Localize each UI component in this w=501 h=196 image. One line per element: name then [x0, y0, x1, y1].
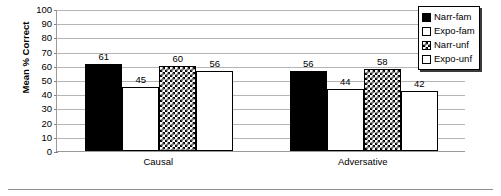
bar[interactable]: 44	[327, 89, 364, 151]
x-axis-category-labels: CausalAdversative	[56, 156, 465, 172]
y-tick-label: 0	[24, 147, 52, 157]
y-tick-label: 70	[24, 48, 52, 58]
bar-value-label: 56	[303, 59, 314, 69]
y-tick-label: 100	[24, 5, 52, 15]
y-tick-label: 10	[24, 133, 52, 143]
bar-chart-figure: Mean % Correct 1009080706050403020100 61…	[0, 0, 501, 196]
bar[interactable]: 60	[159, 66, 196, 151]
chart-legend: Narr-famExpo-famNarr-unfExpo-unf	[418, 6, 480, 70]
y-tick-label: 50	[24, 76, 52, 86]
x-category-label: Causal	[56, 156, 261, 168]
y-tick-label: 60	[24, 62, 52, 71]
bottom-divider-rule	[8, 189, 493, 190]
bar-value-label: 61	[98, 52, 109, 62]
x-category-label: Adversative	[261, 156, 466, 168]
legend-swatch-icon	[422, 55, 431, 64]
bar[interactable]: 58	[364, 69, 401, 151]
bar-value-label: 45	[135, 75, 146, 85]
legend-item[interactable]: Expo-unf	[422, 52, 475, 66]
y-tick-label: 90	[24, 19, 52, 29]
y-tick-mark	[54, 152, 58, 153]
bar-value-label: 58	[377, 57, 388, 67]
y-tick-label: 40	[24, 90, 52, 100]
legend-label: Expo-unf	[434, 54, 472, 64]
bar-value-label: 60	[172, 54, 183, 64]
bar[interactable]: 42	[401, 91, 438, 151]
y-tick-label: 30	[24, 105, 52, 115]
plot-area: 6145605656445842	[56, 10, 465, 152]
bar-value-label: 42	[414, 79, 425, 89]
bar[interactable]: 61	[85, 64, 122, 151]
legend-item[interactable]: Narr-fam	[422, 10, 475, 24]
bar-value-label: 56	[209, 59, 220, 69]
legend-swatch-icon	[422, 27, 431, 36]
legend-swatch-icon	[422, 41, 431, 50]
legend-item[interactable]: Expo-fam	[422, 24, 475, 38]
legend-swatch-icon	[422, 13, 431, 22]
bar[interactable]: 45	[122, 87, 159, 151]
legend-label: Narr-fam	[434, 12, 471, 22]
bar-group: 56445842	[290, 10, 438, 151]
bar-group: 61456056	[85, 10, 233, 151]
legend-label: Expo-fam	[434, 26, 475, 36]
y-tick-label: 20	[24, 119, 52, 129]
y-tick-label: 80	[24, 34, 52, 44]
bar[interactable]: 56	[290, 71, 327, 151]
legend-label: Narr-unf	[434, 40, 469, 50]
legend-item[interactable]: Narr-unf	[422, 38, 475, 52]
bar-value-label: 44	[340, 77, 351, 87]
bar[interactable]: 56	[196, 71, 233, 151]
y-axis-tick-labels: 1009080706050403020100	[24, 10, 52, 152]
